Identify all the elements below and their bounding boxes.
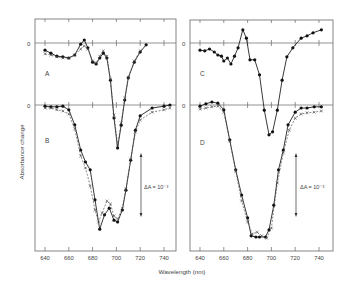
- circle-marker: [254, 235, 257, 238]
- panel-label-d: D: [200, 139, 205, 146]
- curve-d-crosses: [200, 106, 321, 238]
- cross-marker: [256, 231, 259, 234]
- circle-marker: [139, 114, 142, 117]
- circle-marker: [204, 102, 207, 105]
- axis-ticks: [45, 19, 319, 251]
- circle-marker: [300, 106, 303, 109]
- circle-marker: [89, 168, 92, 171]
- cross-marker: [300, 113, 303, 116]
- circle-marker: [43, 49, 46, 52]
- data-curves: [43, 28, 323, 239]
- x-tick-label: 740: [314, 255, 324, 261]
- circle-marker: [203, 49, 206, 52]
- circle-marker: [162, 105, 165, 108]
- circle-marker: [213, 50, 216, 53]
- zero-label-c: 0: [182, 41, 186, 47]
- circle-marker: [79, 43, 82, 46]
- circle-marker: [98, 228, 101, 231]
- x-tick-label: 660: [64, 255, 74, 261]
- circle-marker: [145, 43, 148, 46]
- scale-bar-label-left: ΔA = 10⁻³: [144, 184, 168, 190]
- circle-marker: [320, 105, 323, 108]
- cross-marker: [67, 113, 70, 116]
- circle-marker: [263, 109, 266, 112]
- circle-marker: [305, 34, 308, 37]
- cross-marker: [61, 110, 64, 113]
- circle-marker: [250, 234, 253, 237]
- curve-c-circles: [200, 30, 321, 135]
- circle-marker: [112, 219, 115, 222]
- circle-marker: [116, 146, 119, 149]
- scale-bar-left: [140, 153, 143, 217]
- circle-marker: [210, 100, 213, 103]
- circle-marker: [305, 106, 308, 109]
- circle-marker: [198, 49, 201, 52]
- circle-marker: [216, 102, 219, 105]
- x-tick-label: 740: [159, 255, 169, 261]
- circle-marker: [150, 106, 153, 109]
- circle-marker: [61, 105, 64, 108]
- x-tick-label: 720: [290, 255, 300, 261]
- circle-marker: [67, 108, 70, 111]
- circle-marker: [55, 105, 58, 108]
- panel-label-a: A: [45, 70, 50, 77]
- x-tick-label: 720: [135, 255, 145, 261]
- circle-marker: [253, 58, 256, 61]
- circle-marker: [300, 37, 303, 40]
- scale-bar-label-right: ΔA = 10⁻³: [300, 184, 324, 190]
- cross-marker: [294, 117, 297, 120]
- panel-label-b: B: [45, 137, 49, 144]
- circle-marker: [294, 111, 297, 114]
- curve-b-crosses: [45, 108, 170, 222]
- circle-marker: [198, 105, 201, 108]
- circle-marker: [43, 105, 46, 108]
- curve-a-circles: [45, 40, 146, 148]
- zero-label-a: 0: [27, 41, 31, 47]
- circle-marker: [93, 198, 96, 201]
- circle-marker: [241, 28, 244, 31]
- circle-marker: [276, 109, 279, 112]
- circle-marker: [73, 123, 76, 126]
- circle-marker: [245, 37, 248, 40]
- left-plot-frame: [35, 19, 176, 251]
- panel-label-c: C: [200, 70, 205, 77]
- circle-marker: [313, 105, 316, 108]
- circle-marker: [103, 213, 106, 216]
- circle-marker: [84, 160, 87, 163]
- circle-marker: [229, 62, 232, 65]
- circle-marker: [285, 55, 288, 58]
- cross-marker: [79, 48, 82, 51]
- circle-marker: [208, 47, 211, 50]
- circle-marker: [49, 52, 52, 55]
- circle-marker: [216, 53, 219, 56]
- x-tick-label: 640: [195, 255, 205, 261]
- circle-marker: [233, 55, 236, 58]
- zero-label-b: 0: [27, 103, 31, 109]
- curve-d-circles: [200, 102, 321, 237]
- right-plot-frame: [190, 20, 333, 251]
- circle-marker: [291, 46, 294, 49]
- circle-marker: [108, 207, 111, 210]
- circle-marker: [320, 28, 323, 31]
- scale-bar-right: [295, 153, 298, 217]
- x-tick-label: 700: [267, 255, 277, 261]
- x-tick-label: 680: [88, 255, 98, 261]
- cross-marker: [83, 45, 86, 48]
- circle-marker: [258, 73, 261, 76]
- circle-marker: [272, 204, 275, 207]
- zero-label-d: 0: [182, 103, 186, 109]
- x-axis-label: Wavelength (nm): [159, 268, 206, 275]
- circle-marker: [311, 31, 314, 34]
- circle-marker: [222, 59, 225, 62]
- curve-b-circles: [45, 105, 170, 229]
- circle-marker: [116, 220, 119, 223]
- y-axis-label: Absorbance change: [18, 124, 25, 180]
- circle-marker: [267, 133, 270, 136]
- x-tick-label: 700: [112, 255, 122, 261]
- x-tick-label: 680: [243, 255, 253, 261]
- x-tick-label: 640: [40, 255, 50, 261]
- circle-marker: [220, 55, 223, 58]
- circle-marker: [286, 123, 289, 126]
- x-tick-labels: 640660680700720740640660680700720740: [40, 255, 324, 261]
- circle-marker: [236, 46, 239, 49]
